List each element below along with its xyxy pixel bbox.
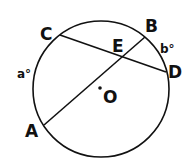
label-d: D — [168, 62, 182, 82]
label-a: A — [25, 121, 39, 141]
label-c: C — [40, 24, 52, 44]
arc-label-b: b° — [160, 42, 175, 56]
label-e: E — [112, 36, 124, 56]
center-dot — [98, 86, 102, 90]
label-o: O — [103, 87, 117, 107]
chord-diagram: C B E D A O a° b° — [0, 0, 194, 162]
arc-label-a: a° — [17, 67, 31, 81]
chord-ab — [44, 37, 145, 125]
label-b: B — [145, 16, 158, 36]
